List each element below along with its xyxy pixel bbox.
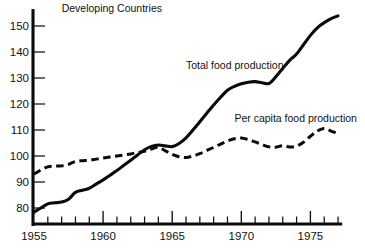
y-axis-tick-label: 120 <box>10 98 29 110</box>
y-axis-tick-label: 130 <box>10 72 29 84</box>
chart-container: 8090100110120130140150 19551960196519701… <box>0 0 365 252</box>
x-axis-tick-label: 1970 <box>229 230 255 242</box>
series-annotation-label: Total food production <box>186 59 284 71</box>
y-axis-tick-label: 140 <box>10 46 29 58</box>
y-axis-tick-label: 150 <box>10 20 29 32</box>
x-axis-tick-label: 1965 <box>159 230 185 242</box>
series-annotation-label: Per capita food production <box>234 112 357 124</box>
y-axis-tick-label: 110 <box>11 124 29 136</box>
food-production-line-chart: 8090100110120130140150 19551960196519701… <box>0 0 365 252</box>
y-axis-tick-label: 90 <box>16 176 29 188</box>
x-axis-tick-label: 1955 <box>21 230 47 242</box>
y-axis-tick-label: 80 <box>16 202 29 214</box>
x-axis-tick-label: 1975 <box>298 230 324 242</box>
x-axis-tick-label: 1960 <box>90 230 116 242</box>
chart-title-label: Developing Countries <box>62 2 162 14</box>
y-axis-tick-label: 100 <box>10 150 29 162</box>
